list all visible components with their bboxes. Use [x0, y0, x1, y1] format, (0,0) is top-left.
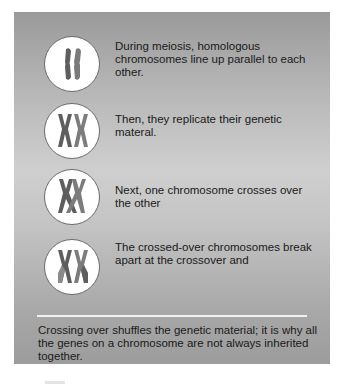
step-2: Then, they replicate their genetic mater…: [14, 103, 330, 163]
diagram-panel: During meiosis, homologous chromosomes l…: [14, 12, 330, 364]
chromosomes-crossing-over-icon: [44, 169, 100, 225]
step-4-text: The crossed-over chromosomes break apart…: [115, 241, 315, 267]
homologous-chromosomes-parallel-icon: [44, 36, 100, 92]
divider: [37, 315, 307, 317]
step-4: The crossed-over chromosomes break apart…: [14, 239, 330, 299]
summary-text: Crossing over shuffles the genetic mater…: [38, 324, 318, 363]
step-3-text: Next, one chromosome crosses over the ot…: [115, 184, 315, 210]
replicated-chromosomes-icon: [44, 103, 100, 159]
step-1-text: During meiosis, homologous chromosomes l…: [115, 40, 315, 79]
step-3: Next, one chromosome crosses over the ot…: [14, 169, 330, 229]
step-1: During meiosis, homologous chromosomes l…: [14, 36, 330, 96]
step-2-text: Then, they replicate their genetic mater…: [115, 113, 315, 139]
chromosomes-broken-at-crossover-icon: [44, 239, 100, 295]
